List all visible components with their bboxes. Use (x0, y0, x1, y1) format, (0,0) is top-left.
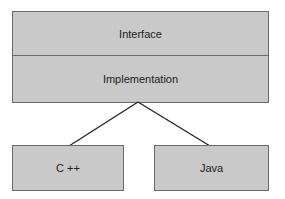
java-label: Java (200, 162, 223, 174)
cpp-label: C ++ (56, 162, 80, 174)
java-box: Java (154, 145, 269, 191)
cpp-box: C ++ (12, 145, 124, 191)
